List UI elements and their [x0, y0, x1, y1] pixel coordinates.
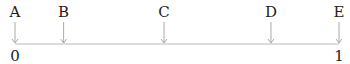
- point-c: C: [158, 3, 169, 43]
- point-b: B: [58, 3, 69, 43]
- end-label-zero: 0: [10, 47, 20, 64]
- end-label-one: 1: [334, 47, 344, 64]
- number-line-diagram: ABCDE 0 1: [0, 0, 350, 64]
- point-d: D: [265, 3, 277, 43]
- point-label: E: [334, 3, 345, 21]
- point-label: A: [9, 3, 21, 21]
- point-label: C: [158, 3, 169, 21]
- point-label: D: [265, 3, 277, 21]
- point-e: E: [334, 3, 345, 43]
- point-label: B: [58, 3, 69, 21]
- point-a: A: [9, 3, 21, 43]
